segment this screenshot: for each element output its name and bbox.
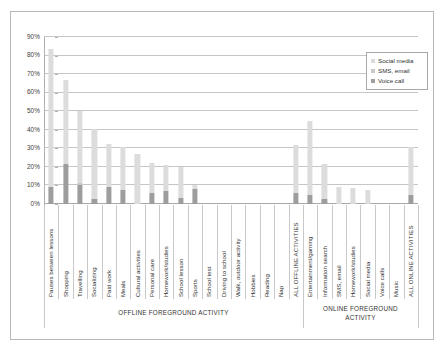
bar-segment bbox=[49, 49, 54, 187]
bar-column bbox=[202, 37, 216, 204]
x-tick-label: Socializing bbox=[91, 267, 97, 297]
x-tick-label: Travelling bbox=[77, 270, 83, 297]
y-tick-label-30%: 30% bbox=[27, 145, 40, 151]
x-tick-label: ALL ONLINE ACTIVITIES bbox=[408, 225, 414, 297]
bar-stack bbox=[63, 80, 68, 204]
bar-stack bbox=[121, 147, 126, 205]
x-tick-label: Nap bbox=[278, 286, 284, 297]
bar-segment bbox=[92, 199, 97, 204]
group-label: ONLINE FOREGROUNDACTIVITY bbox=[303, 305, 418, 322]
x-tick-label: Paid work bbox=[106, 270, 112, 297]
bar-segment bbox=[178, 198, 183, 204]
bar-stack bbox=[77, 111, 82, 204]
group-label: OFFLINE FOREGROUND ACTIVITY bbox=[44, 309, 303, 318]
legend-swatch-icon bbox=[371, 69, 375, 73]
category-separator bbox=[116, 205, 117, 299]
bar-stack bbox=[308, 121, 313, 204]
bar-stack bbox=[149, 163, 154, 204]
category-separator bbox=[346, 205, 347, 299]
legend-swatch-icon bbox=[371, 59, 375, 63]
bar-segment bbox=[164, 191, 169, 204]
bar-column bbox=[145, 37, 159, 204]
bar-segment bbox=[63, 164, 68, 204]
bar-stack bbox=[178, 167, 183, 204]
y-tick-label-80%: 80% bbox=[27, 52, 40, 58]
category-separator bbox=[130, 205, 131, 299]
bar-segment bbox=[149, 163, 154, 193]
bar-stack bbox=[92, 129, 97, 204]
bar-column bbox=[346, 37, 360, 204]
bar-segment bbox=[77, 185, 82, 204]
bar-segment bbox=[322, 199, 327, 204]
y-tick-label-20%: 20% bbox=[27, 164, 40, 170]
bar-segment bbox=[192, 189, 197, 204]
category-separator bbox=[332, 205, 333, 299]
category-separator bbox=[375, 205, 376, 299]
y-axis-tick-labels: 0%10%20%30%40%50%60%70%80%90% bbox=[14, 0, 40, 351]
bar-column bbox=[130, 37, 144, 204]
x-tick-label: Voice calls bbox=[379, 268, 385, 297]
category-separator bbox=[102, 205, 103, 299]
bar-segment bbox=[308, 195, 313, 204]
bar-segment bbox=[135, 154, 140, 204]
y-tick-label-40%: 40% bbox=[27, 127, 40, 133]
x-tick-label: Homework/studies bbox=[350, 246, 356, 297]
x-tick-label: Hobbies bbox=[249, 274, 255, 297]
bar-column bbox=[317, 37, 331, 204]
bar-segment bbox=[149, 193, 154, 204]
category-separator bbox=[360, 205, 361, 299]
x-tick-label: School test bbox=[206, 266, 212, 297]
bar-column bbox=[173, 37, 187, 204]
bar-column bbox=[332, 37, 346, 204]
category-separator bbox=[217, 205, 218, 299]
x-tick-label: Reading bbox=[264, 274, 270, 297]
bar-column bbox=[274, 37, 288, 204]
x-tick-label: Entertainment/gaming bbox=[307, 236, 313, 297]
x-tick-label: Shopping bbox=[62, 271, 68, 297]
bar-stack bbox=[49, 49, 54, 204]
category-separator bbox=[58, 205, 59, 299]
category-separator bbox=[202, 205, 203, 299]
bar-column bbox=[188, 37, 202, 204]
legend-item: SMS, email bbox=[371, 66, 424, 76]
bar-stack bbox=[351, 188, 356, 204]
y-tick-label-0%: 0% bbox=[31, 201, 40, 207]
category-separator bbox=[289, 205, 290, 299]
x-tick-label: Personal care bbox=[149, 259, 155, 297]
legend-label: Voice call bbox=[378, 78, 404, 84]
category-separator bbox=[317, 205, 318, 299]
x-tick-label: Walk, outdoor activity bbox=[235, 238, 241, 297]
bar-stack bbox=[135, 154, 140, 204]
bar-column bbox=[217, 37, 231, 204]
category-separator bbox=[159, 205, 160, 299]
bar-segment bbox=[293, 145, 298, 193]
bar-segment bbox=[365, 190, 370, 204]
bar-column bbox=[303, 37, 317, 204]
bar-segment bbox=[408, 147, 413, 195]
bar-segment bbox=[106, 187, 111, 204]
bar-stack bbox=[408, 147, 413, 205]
bar-column bbox=[231, 37, 245, 204]
bar-segment bbox=[92, 129, 97, 200]
y-tick-label-50%: 50% bbox=[27, 108, 40, 114]
y-tick-label-60%: 60% bbox=[27, 89, 40, 95]
bar-segment bbox=[121, 147, 126, 191]
x-tick-label: Driving to school bbox=[221, 251, 227, 297]
category-separator bbox=[188, 205, 189, 299]
category-separator bbox=[145, 205, 146, 299]
bar-segment bbox=[63, 80, 68, 164]
category-separator bbox=[87, 205, 88, 299]
group-separator bbox=[418, 205, 419, 328]
bar-stack bbox=[192, 185, 197, 204]
bar-column bbox=[159, 37, 173, 204]
legend-swatch-icon bbox=[371, 79, 375, 83]
x-tick-label: SMS, email bbox=[336, 265, 342, 297]
bar-segment bbox=[106, 144, 111, 188]
x-tick-label: Sports bbox=[192, 279, 198, 297]
category-separator bbox=[260, 205, 261, 299]
bar-column bbox=[116, 37, 130, 204]
category-separator bbox=[389, 205, 390, 299]
bar-stack bbox=[164, 165, 169, 204]
bar-column bbox=[289, 37, 303, 204]
category-separator bbox=[173, 205, 174, 299]
